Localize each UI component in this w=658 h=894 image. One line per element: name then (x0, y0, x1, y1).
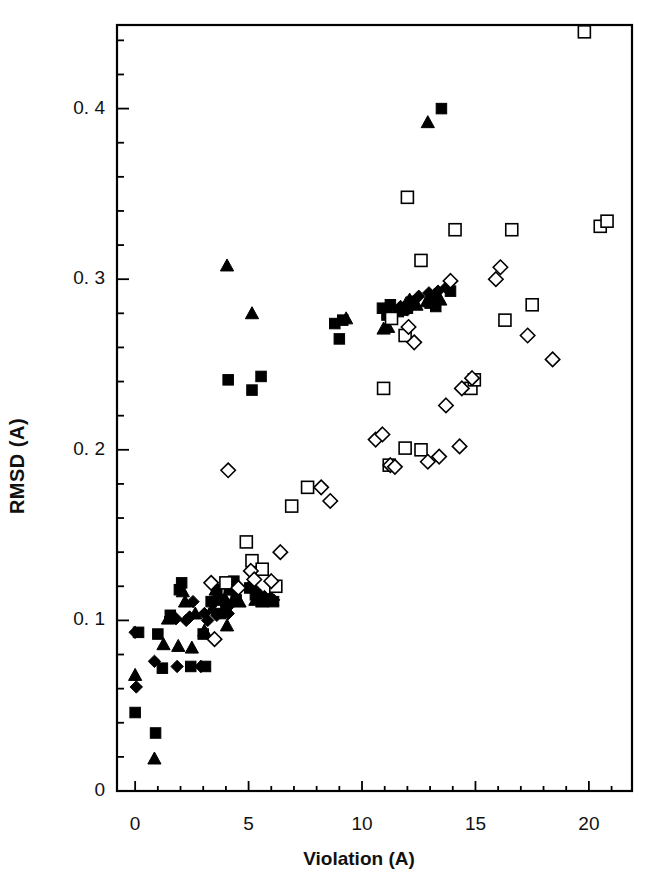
y-tick-label: 0. 1 (21, 608, 105, 630)
data-point-open-square (378, 382, 390, 394)
data-point-open-square (415, 444, 427, 456)
series-filled-diamond (129, 282, 452, 694)
data-point-open-diamond (545, 352, 559, 366)
data-point-open-square (526, 299, 538, 311)
data-point-open-square (256, 563, 268, 575)
data-point-open-square (415, 254, 427, 266)
x-tick-label: 15 (445, 813, 505, 835)
data-point-filled-square (130, 707, 141, 718)
x-tick-label: 0 (105, 813, 165, 835)
data-point-filled-square (247, 385, 258, 396)
data-point-open-square (506, 224, 518, 236)
y-tick-label: 0. 3 (21, 267, 105, 289)
data-point-open-diamond (439, 398, 453, 412)
data-point-filled-square (334, 334, 345, 345)
data-point-filled-square (223, 375, 234, 386)
y-tick-label: 0. 2 (21, 438, 105, 460)
data-point-open-square (240, 536, 252, 548)
x-tick-label: 20 (559, 813, 619, 835)
data-point-filled-triangle (185, 641, 198, 653)
x-tick-label: 5 (219, 813, 279, 835)
x-axis-label: Violation (A) (0, 848, 658, 870)
data-point-filled-triangle (148, 752, 161, 764)
data-point-filled-diamond (171, 660, 183, 672)
data-point-open-square (386, 312, 398, 324)
data-point-filled-triangle (220, 259, 233, 271)
y-tick-label: 0. 4 (21, 97, 105, 119)
data-point-open-square (286, 500, 298, 512)
data-point-open-square (601, 215, 613, 227)
axis-ticks (117, 40, 612, 791)
x-tick-label: 10 (332, 813, 392, 835)
data-point-open-square (449, 224, 461, 236)
plot-frame (117, 25, 632, 791)
data-point-filled-diamond (130, 681, 142, 693)
data-point-filled-triangle (220, 619, 233, 631)
data-point-filled-square (256, 371, 267, 382)
data-point-open-diamond (273, 545, 287, 559)
y-tick-label: 0 (21, 779, 105, 801)
data-point-open-diamond (323, 494, 337, 508)
data-point-filled-triangle (245, 307, 258, 319)
data-point-open-square (220, 577, 232, 589)
data-point-filled-triangle (421, 116, 434, 128)
data-point-open-square (302, 481, 314, 493)
data-point-filled-triangle (172, 639, 185, 651)
data-point-filled-square (436, 103, 447, 114)
data-point-open-square (499, 314, 511, 326)
data-point-filled-square (157, 663, 168, 674)
data-point-filled-triangle (129, 668, 142, 680)
data-point-filled-square (150, 728, 161, 739)
data-point-open-square (401, 191, 413, 203)
data-point-open-diamond (314, 480, 328, 494)
data-point-open-diamond (452, 439, 466, 453)
y-axis-label: RMSD (A) (6, 366, 29, 566)
data-point-open-square (399, 442, 411, 454)
data-point-filled-square (153, 629, 164, 640)
data-point-open-square (578, 26, 590, 38)
data-point-open-diamond (520, 328, 534, 342)
figure-canvas: RMSD (A) Violation (A) 0510152000. 10. 2… (0, 0, 658, 894)
data-point-open-diamond (221, 463, 235, 477)
